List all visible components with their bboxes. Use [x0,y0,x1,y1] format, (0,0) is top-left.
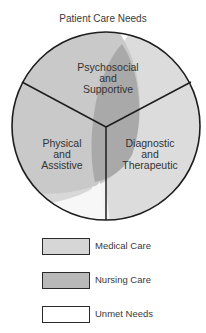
legend-label: Medical Care [95,240,151,251]
segment-label-physical: Physical and Assistive [34,138,90,171]
label-line: Supportive [60,84,156,95]
legend-label: Nursing Care [95,274,151,285]
segment-label-diagnostic: Diagnostic and Therapeutic [116,138,184,171]
legend-label: Unmet Needs [95,308,153,319]
segment-label-psychosocial: Psychosocial and Supportive [60,62,156,95]
label-line: Therapeutic [116,160,184,171]
label-line: Assistive [34,160,90,171]
legend-swatch-medical [42,238,90,255]
legend-swatch-nursing [42,272,90,289]
legend-swatch-unmet [42,306,90,323]
